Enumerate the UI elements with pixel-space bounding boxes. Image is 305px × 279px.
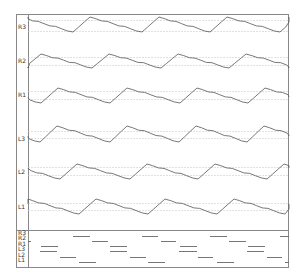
channel-label-r3: R3 (18, 23, 26, 30)
channel-label-r2: R2 (18, 57, 26, 64)
waveform-chart: R3R2R1L3L2L1 R3R2R1L3L2L1 (0, 0, 305, 279)
channel-label-l1: L1 (18, 203, 25, 210)
waveform-traces (28, 17, 289, 214)
trace-l1 (28, 199, 289, 214)
channel-label-r1: R1 (18, 91, 26, 98)
trace-r1 (28, 88, 289, 103)
trace-l3 (28, 126, 289, 142)
channel-label-l2: L2 (18, 168, 25, 175)
event-panel (28, 237, 289, 263)
trace-r3 (28, 17, 289, 32)
reference-gridlines (28, 21, 289, 211)
event-panel-labels: R3R2R1L3L2L1 (18, 229, 26, 263)
channel-labels: R3R2R1L3L2L1 (18, 23, 26, 210)
event-label-l1: L1 (18, 256, 25, 263)
trace-l2 (28, 164, 289, 179)
channel-label-l3: L3 (18, 135, 25, 142)
trace-r2 (28, 54, 289, 68)
